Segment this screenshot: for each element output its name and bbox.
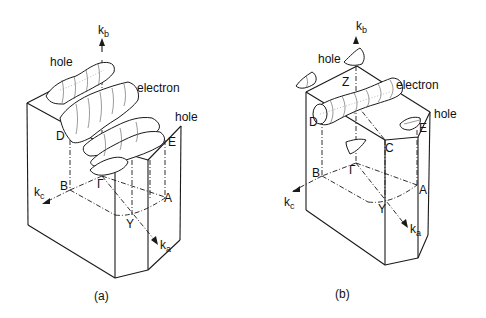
point-A-label-a: A (164, 191, 172, 205)
point-Y-label-b: Y (378, 202, 386, 216)
hole-pocket-E-b (400, 117, 420, 130)
kc-label-b: kc (284, 195, 295, 211)
ka-label-b: ka (410, 222, 421, 238)
fermi-surfaces-a (46, 62, 165, 175)
point-Y-label-a: Y (126, 217, 134, 231)
caption-a: (a) (94, 289, 109, 303)
figure-canvas: kb hole electron hole D E Γ B A Y kc ka … (0, 0, 486, 318)
labels-b: kb hole electron hole Z D E C Γ B A Y kc… (284, 19, 457, 301)
kb-arrowhead-icon (99, 38, 105, 46)
point-gamma-label-b: Γ (349, 163, 356, 177)
kb-label-b: kb (356, 19, 367, 35)
point-D-label-a: D (56, 129, 65, 143)
hole-pocket-C-b (346, 139, 366, 154)
hole-pocket-left-b (296, 72, 316, 88)
hole-right-label-b: hole (434, 107, 457, 121)
hole-right-label-a: hole (175, 110, 198, 124)
hole-top-label-a: hole (50, 55, 73, 69)
point-E-label-b: E (419, 121, 427, 135)
kc-label-a: kc (34, 185, 45, 201)
point-C-label-b: C (385, 141, 394, 155)
point-Z-label-b: Z (342, 75, 349, 89)
kb-label-a: kb (98, 23, 109, 39)
point-A-label-b: A (419, 183, 427, 197)
point-gamma-label-a: Γ (97, 177, 104, 191)
kc-arrowhead-icon (292, 186, 300, 192)
fermi-surface-figure: kb hole electron hole D E Γ B A Y kc ka … (0, 0, 486, 318)
panel-a: kb hole electron hole D E Γ B A Y kc ka … (27, 23, 198, 303)
ka-arrowhead-icon (151, 236, 158, 245)
hole-pocket-top-b (344, 48, 364, 65)
hole-top-label-b: hole (318, 52, 341, 66)
kb-arrowhead-icon (353, 36, 359, 44)
point-B-label-b: B (312, 166, 320, 180)
point-D-label-b: D (309, 115, 318, 129)
point-E-label-a: E (168, 135, 176, 149)
electron-label-b: electron (396, 78, 439, 92)
caption-b: (b) (335, 287, 350, 301)
electron-cylinder-b (316, 78, 403, 125)
ka-label-a: ka (160, 238, 171, 254)
point-B-label-a: B (60, 179, 68, 193)
panel-b: kb hole electron hole Z D E C Γ B A Y kc… (284, 19, 457, 301)
electron-label-a: electron (137, 81, 180, 95)
